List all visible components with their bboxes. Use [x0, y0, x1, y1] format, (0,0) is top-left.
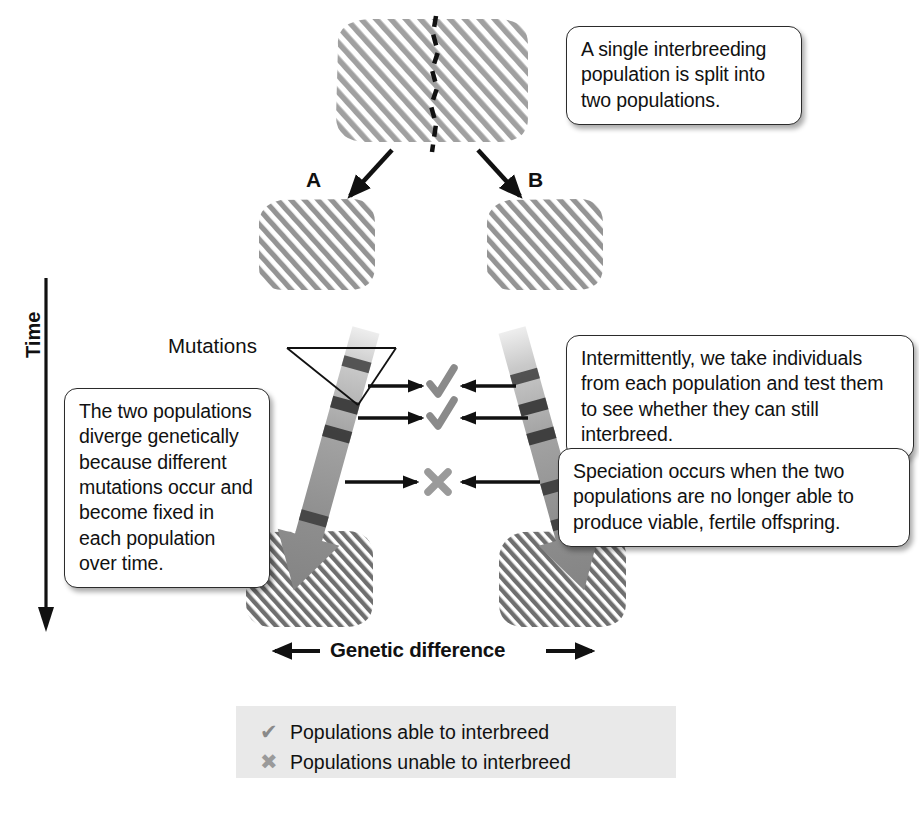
time-axis-label: Time — [22, 312, 45, 358]
callout-speciation: Speciation occurs when the two populatio… — [558, 448, 910, 547]
label-population-a: A — [306, 168, 321, 192]
test-result-cross-1 — [428, 472, 448, 492]
speciation-diagram: Time A B Mutations Genetic difference A … — [0, 0, 919, 819]
cross-icon: ✖ — [260, 750, 290, 774]
genetic-difference-label: Genetic difference — [330, 638, 505, 662]
label-mutations: Mutations — [168, 334, 257, 358]
legend-item-interbreed-yes: ✔ Populations able to interbreed — [236, 717, 676, 747]
legend-label-interbreed-yes: Populations able to interbreed — [290, 721, 549, 744]
callout-diverge-text: The two populations diverge genetically … — [79, 400, 253, 574]
legend-label-interbreed-no: Populations unable to interbreed — [290, 751, 571, 774]
callout-test: Intermittently, we take individuals from… — [566, 335, 914, 459]
callout-split-text: A single interbreeding population is spl… — [581, 38, 766, 111]
test-result-check-1 — [430, 368, 454, 394]
check-icon: ✔ — [260, 720, 290, 744]
callout-speciation-text: Speciation occurs when the two populatio… — [573, 460, 854, 533]
callout-split: A single interbreeding population is spl… — [566, 26, 802, 125]
callout-test-text: Intermittently, we take individuals from… — [581, 347, 883, 445]
label-population-b: B — [528, 168, 543, 192]
legend-item-interbreed-no: ✖ Populations unable to interbreed — [236, 747, 676, 777]
legend: ✔ Populations able to interbreed ✖ Popul… — [236, 706, 676, 778]
test-result-check-2 — [430, 400, 454, 426]
callout-diverge: The two populations diverge genetically … — [64, 388, 270, 588]
